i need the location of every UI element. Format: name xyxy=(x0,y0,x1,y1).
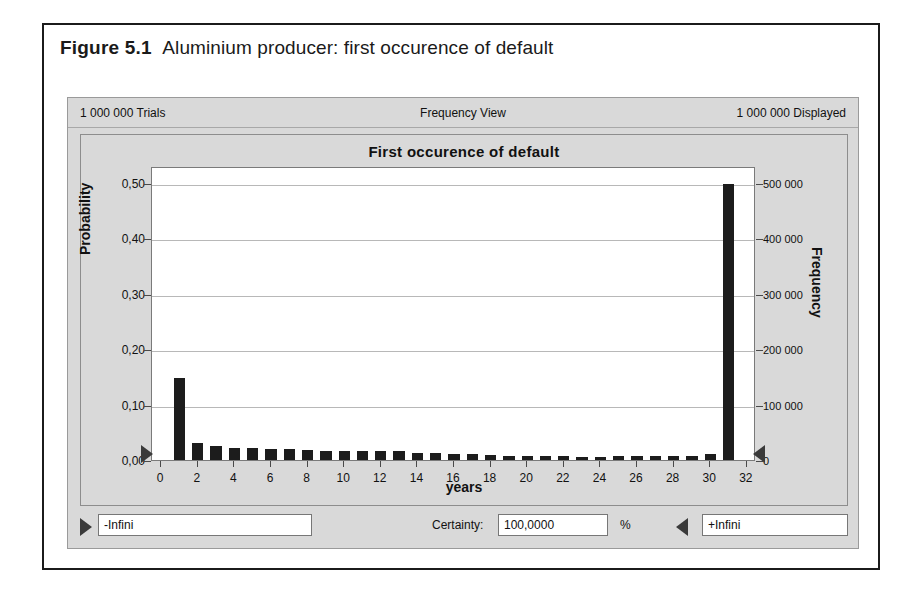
bar xyxy=(393,451,404,460)
bar xyxy=(522,456,533,460)
x-axis-tick-mark xyxy=(599,461,600,467)
figure-number: Figure 5.1 xyxy=(60,37,152,58)
percent-label: % xyxy=(620,518,631,532)
bar xyxy=(357,451,368,460)
y-axis-tick-label: 0,50 xyxy=(122,177,145,191)
plot-area xyxy=(151,167,755,461)
max-grabber-icon[interactable] xyxy=(676,518,688,536)
bar xyxy=(302,450,313,460)
figure-caption-text: Aluminium producer: first occurence of d… xyxy=(162,37,553,58)
bar xyxy=(229,448,240,460)
panel-header: 1 000 000 Trials Frequency View 1 000 00… xyxy=(68,98,858,128)
bar xyxy=(613,456,624,460)
x-axis-tick-mark xyxy=(453,461,454,467)
bar xyxy=(595,457,606,460)
bar xyxy=(247,448,258,460)
panel-footer: -Infini Certainty: 100,0000 % +Infini xyxy=(80,514,848,540)
bar xyxy=(284,449,295,460)
x-axis-tick-mark xyxy=(307,461,308,467)
bar xyxy=(339,451,350,460)
y2-axis-tick-mark xyxy=(756,406,763,407)
x-axis-tick-mark xyxy=(416,461,417,467)
y2-axis-tick-label: 100 000 xyxy=(763,400,803,412)
y2-axis-tick-mark xyxy=(756,350,763,351)
y2-axis-tick-mark xyxy=(756,295,763,296)
y2-axis-tick-label: 200 000 xyxy=(763,344,803,356)
figure-caption: Figure 5.1 Aluminium producer: first occ… xyxy=(60,37,860,65)
certainty-input[interactable]: 100,0000 xyxy=(498,514,608,536)
bar xyxy=(412,453,423,460)
y-axis-tick-label: 0,20 xyxy=(122,343,145,357)
x-axis-tick-mark xyxy=(746,461,747,467)
bar xyxy=(320,451,331,460)
y2-axis-tick-label: 300 000 xyxy=(763,289,803,301)
min-value-input[interactable]: -Infini xyxy=(98,514,312,536)
x-axis-tick-mark xyxy=(526,461,527,467)
range-grabber-right-icon[interactable] xyxy=(753,445,765,463)
bar xyxy=(540,456,551,460)
range-grabber-left-icon[interactable] xyxy=(141,445,153,463)
y-axis-tick-mark xyxy=(144,295,151,296)
x-axis-tick-mark xyxy=(490,461,491,467)
bar xyxy=(650,456,661,460)
bar xyxy=(467,454,478,460)
bar xyxy=(723,184,734,460)
y2-axis-tick-mark xyxy=(756,184,763,185)
x-axis-tick-mark xyxy=(380,461,381,467)
y-axis-title: Probability xyxy=(77,183,93,255)
x-axis-tick-mark xyxy=(563,461,564,467)
bar xyxy=(705,454,716,460)
bar xyxy=(576,457,587,460)
displayed-count: 1 000 000 Displayed xyxy=(737,106,846,120)
bar xyxy=(485,455,496,460)
bar xyxy=(448,454,459,460)
bar xyxy=(430,453,441,460)
x-axis-tick-mark xyxy=(233,461,234,467)
y-axis-tick-label: 0,10 xyxy=(122,399,145,413)
bar xyxy=(192,443,203,460)
bar xyxy=(210,446,221,460)
bar xyxy=(174,378,185,460)
x-axis-title: years xyxy=(81,479,847,495)
y-axis-tick-mark xyxy=(144,406,151,407)
bar-series xyxy=(152,168,754,460)
certainty-label: Certainty: xyxy=(432,518,483,532)
bar xyxy=(503,456,514,460)
y-axis-tick-mark xyxy=(144,350,151,351)
y-axis-tick-mark xyxy=(144,184,151,185)
max-value-input[interactable]: +Infini xyxy=(702,514,848,536)
crystal-ball-panel: 1 000 000 Trials Frequency View 1 000 00… xyxy=(67,97,859,549)
y-axis-tick-label: 0,40 xyxy=(122,232,145,246)
x-axis-tick-mark xyxy=(197,461,198,467)
bar xyxy=(375,451,386,460)
bar xyxy=(668,456,679,460)
min-grabber-icon[interactable] xyxy=(80,518,92,536)
y2-axis-tick-label: 500 000 xyxy=(763,178,803,190)
y-axis-tick-label: 0,30 xyxy=(122,288,145,302)
bar xyxy=(265,449,276,460)
x-axis-tick-mark xyxy=(343,461,344,467)
figure-page: Figure 5.1 Aluminium producer: first occ… xyxy=(0,0,918,596)
y2-axis-tick-label: 400 000 xyxy=(763,233,803,245)
bar xyxy=(558,456,569,460)
y2-axis-tick-labels: 0100 000200 000300 000400 000500 000 xyxy=(763,167,825,461)
bar xyxy=(686,456,697,460)
y-axis-tick-labels: 0,000,100,200,300,400,50 xyxy=(97,167,145,461)
x-axis-tick-mark xyxy=(636,461,637,467)
x-axis-tick-mark xyxy=(673,461,674,467)
chart-title: First occurence of default xyxy=(81,143,847,160)
x-axis-tick-mark xyxy=(160,461,161,467)
bar xyxy=(631,456,642,460)
x-axis-tick-mark xyxy=(709,461,710,467)
chart-container: First occurence of default Probability F… xyxy=(80,134,848,506)
y-axis-tick-mark xyxy=(144,239,151,240)
figure-frame: Figure 5.1 Aluminium producer: first occ… xyxy=(42,23,880,570)
y2-axis-tick-mark xyxy=(756,239,763,240)
x-axis-tick-mark xyxy=(270,461,271,467)
